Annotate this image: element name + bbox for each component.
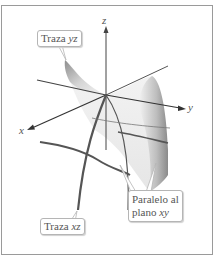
x-axis-label: x (19, 124, 24, 136)
z-axis-arrow-icon (104, 26, 109, 33)
callout-parallel-line1: Paralelo al (132, 193, 179, 206)
callout-parallel-xy: Paralelo al plano xy (128, 190, 183, 222)
saddle-left-lobe (65, 60, 106, 95)
callout-xz-var: xz (71, 220, 80, 232)
x-axis-arrow-icon (27, 125, 35, 131)
callout-xz-trace: Traza xz (40, 218, 85, 235)
y-axis-arrow-icon (178, 106, 186, 112)
saddle-surface-diagram (0, 0, 216, 258)
callout-xz-prefix: Traza (44, 220, 69, 232)
callout-parallel-line2: plano xy (132, 206, 179, 219)
callout-yz-var: yz (68, 32, 77, 44)
callout-yz-prefix: Traza (41, 32, 66, 44)
y-axis-label: y (188, 101, 193, 113)
callout-parallel-var: xy (159, 206, 169, 218)
callout-parallel-prefix: plano (132, 206, 156, 218)
z-axis-label: z (102, 14, 106, 26)
callout-yz-trace: Traza yz (37, 30, 82, 47)
yz-callout-pointer (58, 45, 66, 60)
